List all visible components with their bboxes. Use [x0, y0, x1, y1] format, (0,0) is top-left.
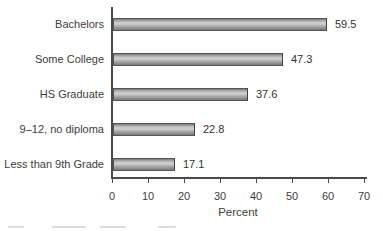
bar	[113, 88, 248, 101]
tick-label: 30	[202, 190, 238, 202]
value-label: 37.6	[256, 88, 277, 101]
tick-label: 70	[346, 190, 382, 202]
tick-mark	[220, 179, 221, 183]
tick-label: 20	[166, 190, 202, 202]
category-label: Less than 9th Grade	[0, 158, 104, 171]
cropped-caption-fragment	[8, 226, 268, 230]
bar	[113, 53, 283, 66]
tick-mark	[256, 179, 257, 183]
category-label: Bachelors	[0, 18, 104, 31]
tick-label: 60	[310, 190, 346, 202]
bar	[113, 123, 195, 136]
tick-mark	[292, 179, 293, 183]
tick-mark	[328, 179, 329, 183]
bar	[113, 158, 175, 171]
tick-mark	[184, 179, 185, 183]
tick-label: 0	[94, 190, 130, 202]
x-axis-title: Percent	[112, 206, 364, 218]
value-label: 17.1	[183, 158, 204, 171]
tick-label: 10	[130, 190, 166, 202]
bar	[113, 18, 327, 31]
bar-chart: Bachelors59.5Some College47.3HS Graduate…	[0, 0, 383, 231]
tick-mark	[148, 179, 149, 183]
tick-mark	[112, 179, 113, 183]
category-label: 9–12, no diploma	[0, 123, 104, 136]
tick-label: 40	[238, 190, 274, 202]
value-label: 47.3	[291, 53, 312, 66]
category-label: Some College	[0, 53, 104, 66]
category-label: HS Graduate	[0, 88, 104, 101]
value-label: 22.8	[203, 123, 224, 136]
value-label: 59.5	[335, 18, 356, 31]
tick-label: 50	[274, 190, 310, 202]
tick-mark	[364, 179, 365, 183]
